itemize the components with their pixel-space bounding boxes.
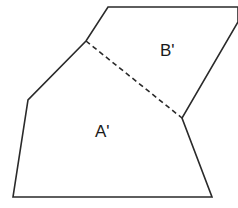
polygon-diagram: B' A'	[0, 0, 238, 208]
region-label-a: A'	[95, 122, 110, 141]
region-label-b: B'	[160, 41, 175, 60]
outer-outline	[13, 7, 238, 197]
